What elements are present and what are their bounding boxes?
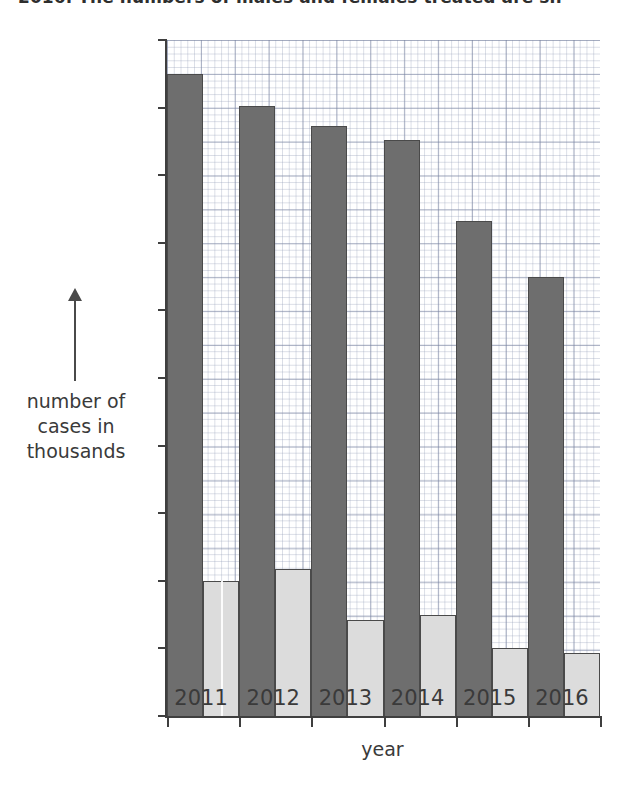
x-tick-mark-1 [239, 716, 241, 727]
y-tick-mark-20 [158, 580, 167, 582]
x-tick-label-2015: 2015 [463, 686, 516, 710]
x-tick-label-2012: 2012 [247, 686, 300, 710]
bar-male-2016[interactable] [528, 277, 564, 716]
bar-male-2014[interactable] [384, 140, 420, 716]
y-axis-title: number of cases in thousands [8, 389, 144, 464]
y-axis-title-line-1: number of [8, 389, 144, 414]
x-tick-mark-3 [384, 716, 386, 727]
x-tick-mark-4 [456, 716, 458, 727]
x-tick-label-2013: 2013 [319, 686, 372, 710]
x-tick-label-2011: 2011 [174, 686, 227, 710]
bar-male-2012[interactable] [239, 106, 275, 716]
bar-male-2013[interactable] [311, 126, 347, 716]
y-tick-mark-30 [158, 242, 167, 244]
x-tick-label-2014: 2014 [391, 686, 444, 710]
y-tick-mark-36 [158, 39, 167, 41]
x-tick-mark-0 [167, 716, 169, 727]
x-axis-title: year [165, 738, 600, 760]
bar-group-2014 [384, 40, 456, 716]
up-arrow-shaft-icon [74, 295, 76, 381]
y-tick-mark-16 [158, 715, 167, 717]
y-tick-mark-34 [158, 107, 167, 109]
bar-group-2011 [167, 40, 239, 716]
y-tick-mark-26 [158, 377, 167, 379]
bar-male-2011[interactable] [167, 74, 203, 716]
bar-group-2015 [456, 40, 528, 716]
bar-male-2015[interactable] [456, 221, 492, 716]
x-tick-mark-6 [600, 716, 602, 727]
page-caption-text: 2016. The numbers of males and females t… [18, 0, 618, 7]
bar-group-2016 [528, 40, 600, 716]
x-tick-mark-5 [528, 716, 530, 727]
y-tick-mark-28 [158, 309, 167, 311]
y-tick-mark-18 [158, 647, 167, 649]
chart-plot-area: 3634323028262422201816 male female [165, 40, 600, 718]
x-tick-label-2016: 2016 [535, 686, 588, 710]
bar-group-2012 [239, 40, 311, 716]
x-tick-mark-2 [311, 716, 313, 727]
y-tick-mark-24 [158, 445, 167, 447]
y-tick-mark-32 [158, 174, 167, 176]
bar-groups [167, 40, 600, 716]
y-axis-title-line-2: cases in [8, 414, 144, 439]
bar-group-2013 [311, 40, 383, 716]
y-tick-mark-22 [158, 512, 167, 514]
y-axis-title-line-3: thousands [8, 439, 144, 464]
